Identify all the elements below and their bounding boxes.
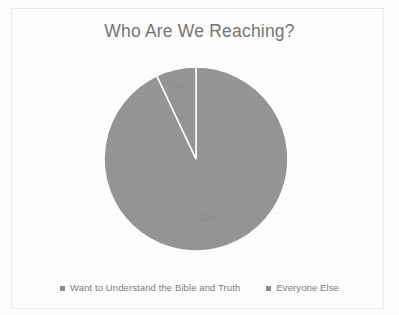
legend-item-want-to-understand-the-bible-and-truth[interactable]: Want to Understand the Bible and Truth bbox=[60, 282, 240, 294]
pie-data-label-want-to-understand-the-bible-and-truth: 93% bbox=[198, 212, 218, 223]
legend-item-label: Want to Understand the Bible and Truth bbox=[70, 282, 240, 294]
pie-plot-area: 93% 7% bbox=[0, 52, 399, 267]
chart-title: Who Are We Reaching? bbox=[0, 21, 399, 42]
legend-item-everyone-else[interactable]: Everyone Else bbox=[266, 282, 339, 294]
legend-square-icon bbox=[266, 286, 271, 291]
chart-legend: Want to Understand the Bible and Truth E… bbox=[0, 282, 399, 294]
pie-chart-graphic bbox=[0, 52, 399, 267]
legend-item-label: Everyone Else bbox=[276, 282, 339, 294]
legend-square-icon bbox=[60, 286, 65, 291]
pie-data-label-everyone-else: 7% bbox=[169, 79, 183, 90]
pie-chart-card: Who Are We Reaching? 93% 7% Want to Unde… bbox=[0, 0, 399, 315]
